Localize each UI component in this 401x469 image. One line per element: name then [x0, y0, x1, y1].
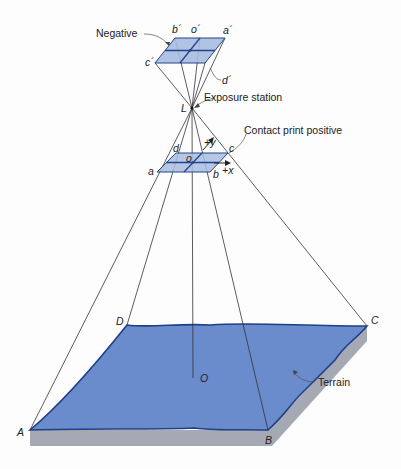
- label-B: B: [265, 434, 272, 446]
- label-terrain: Terrain: [318, 376, 350, 388]
- label-plus-y: +y: [204, 136, 216, 148]
- label-D: D: [116, 315, 124, 327]
- label-A: A: [16, 426, 24, 438]
- label-exposure-station: Exposure station: [204, 91, 282, 103]
- label-C: C: [371, 314, 379, 326]
- label-negative: Negative: [96, 27, 138, 39]
- label-a: a: [148, 165, 154, 177]
- label-c: c: [229, 142, 235, 154]
- label-contact-print-positive: Contact print positive: [244, 124, 342, 136]
- label-O: O: [200, 372, 208, 384]
- label-b-prime: b´: [172, 23, 182, 35]
- diagram-canvas: Negative Exposure station Contact print …: [0, 0, 401, 469]
- label-c-prime: c´: [145, 56, 154, 68]
- label-plus-x: +x: [222, 164, 234, 176]
- label-b: b: [213, 168, 219, 180]
- label-d-prime: d´: [222, 74, 232, 86]
- label-o: o: [186, 152, 192, 164]
- ray-L-C: [192, 108, 367, 326]
- label-o-prime: o´: [191, 23, 201, 35]
- terrain-surface: [30, 324, 367, 430]
- photogrammetry-diagram: Negative Exposure station Contact print …: [0, 0, 401, 469]
- label-L: L: [181, 102, 187, 114]
- exposure-point: [190, 106, 193, 109]
- ray-L-D: [127, 108, 192, 325]
- label-a-prime: a´: [223, 24, 233, 36]
